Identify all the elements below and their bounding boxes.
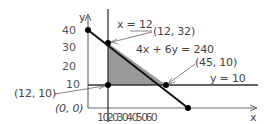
feasible-region-chart: y x 40 30 20 10 10 20 30 40 50 60 x = 12… <box>0 0 273 124</box>
label-y-equals-10: y = 10 <box>210 73 246 84</box>
y-tick-30: 30 <box>62 42 76 53</box>
x-tick-labels: 10 20 30 40 50 60 <box>97 112 156 123</box>
point-12-32 <box>105 40 111 46</box>
label-point-12-10: (12, 10) <box>14 88 56 99</box>
label-x-equals-12: x = 12 <box>117 19 153 30</box>
label-point-12-32: (12, 32) <box>153 26 195 37</box>
y-axis-label: y <box>79 12 85 23</box>
point-12-10 <box>105 82 111 88</box>
x-axis-label: x <box>250 112 256 123</box>
label-constraint: 4x + 6y = 240 <box>136 44 214 55</box>
label-origin: (0, 0) <box>55 103 83 114</box>
point-0-40 <box>85 27 91 33</box>
point-45-10 <box>163 82 169 88</box>
line-constraint <box>88 30 188 108</box>
point-60-0 <box>185 105 191 111</box>
y-tick-20: 20 <box>62 61 76 72</box>
pointer-12-32 <box>112 32 152 42</box>
y-tick-10: 10 <box>66 79 80 90</box>
label-point-45-10: (45, 10) <box>195 57 237 68</box>
pointer-45-10 <box>169 64 195 83</box>
y-tick-40: 40 <box>62 25 76 36</box>
